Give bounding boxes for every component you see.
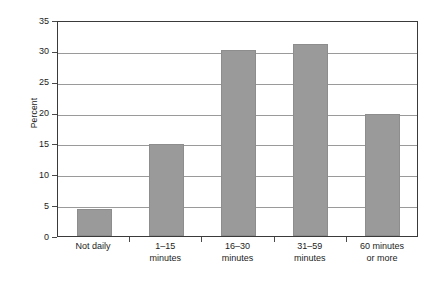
plot-inner — [58, 22, 417, 236]
y-axis-tick-label: 10 — [23, 171, 49, 180]
x-axis-category-label: 60 minutes or more — [346, 241, 418, 264]
y-axis-tick-label: 30 — [23, 47, 49, 56]
bar-chart-figure: Percent 05101520253035 Not daily1–15 min… — [0, 0, 435, 281]
x-axis-category-label: 1–15 minutes — [129, 241, 201, 264]
y-axis-tick-label: 5 — [23, 202, 49, 211]
bar — [77, 209, 112, 236]
plot-area — [57, 21, 418, 237]
y-axis-tick-label: 15 — [23, 140, 49, 149]
y-axis-tick-mark — [52, 237, 57, 238]
bar — [221, 50, 256, 236]
y-axis-tick-label: 25 — [23, 78, 49, 87]
bar — [149, 144, 184, 236]
y-axis-tick-label: 20 — [23, 109, 49, 118]
x-axis-category-label: 31–59 minutes — [274, 241, 346, 264]
x-axis-category-label: 16–30 minutes — [201, 241, 273, 264]
bar — [293, 44, 328, 236]
x-axis-category-label: Not daily — [57, 241, 129, 253]
y-axis-tick-label: 0 — [23, 233, 49, 242]
y-axis-tick-label: 35 — [23, 17, 49, 26]
bar — [365, 114, 400, 236]
